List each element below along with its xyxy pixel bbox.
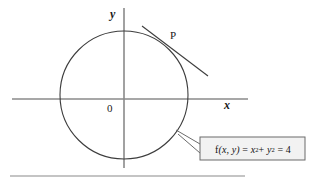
y-axis-label: y [110, 8, 115, 20]
origin-label: 0 [107, 103, 113, 114]
x-axis-label: x [224, 99, 230, 111]
plus-sign: + [259, 144, 265, 155]
equals-sign-2: = [277, 144, 283, 155]
equals-sign-1: = [242, 144, 248, 155]
diagram-canvas [0, 0, 312, 187]
tangent-point-label: P [170, 30, 176, 41]
function-arguments: (x, y) [219, 144, 240, 155]
circle-tangent-diagram: y x 0 P f(x, y) = x2+ y2 = 4 [0, 0, 312, 187]
equation-callout-text: f(x, y) = x2+ y2 = 4 [203, 141, 303, 157]
equation-value: 4 [286, 144, 291, 155]
callout-leader-upper [176, 130, 200, 144]
term-2-exponent: 2 [271, 146, 274, 153]
callout-leader-lower [178, 134, 200, 153]
